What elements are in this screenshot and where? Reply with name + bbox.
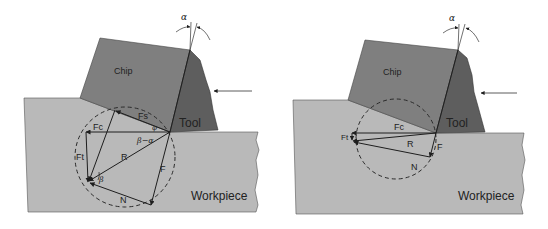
Ft-label: Ft [76,152,84,162]
workpiece-label: Workpiece [191,189,248,203]
Fc-label: Fc [93,122,103,132]
Fc-label: Fc [394,122,404,132]
F-label: F [437,142,443,152]
F-label: F [160,164,166,174]
N-label: N [120,195,127,205]
alpha-label: α [181,12,187,22]
beta-minus-alpha-label: β−α [136,136,154,145]
chip-label: Chip [383,67,402,77]
workpiece-label: Workpiece [458,189,515,203]
chip-label: Chip [114,66,133,76]
phi-label: φ [152,124,157,132]
R-label: R [121,152,128,162]
Fs-label: Fs [138,111,148,121]
N-label: N [411,162,418,172]
right-panel: α Chip Tool Workpiece Fc Ft R F N [293,13,525,214]
alpha-label: α [449,13,455,23]
R-label: R [407,139,414,149]
beta-label: β [98,175,104,184]
metal-cutting-force-diagram: α Chip Tool Workpiece Fs Fc Ft R F N φ β… [0,0,548,229]
left-panel: α Chip Tool Workpiece Fs Fc Ft R F N φ β… [24,12,259,212]
tool-label: Tool [179,116,201,130]
tool-label: Tool [446,116,468,130]
Ft-label: Ft [341,133,349,142]
